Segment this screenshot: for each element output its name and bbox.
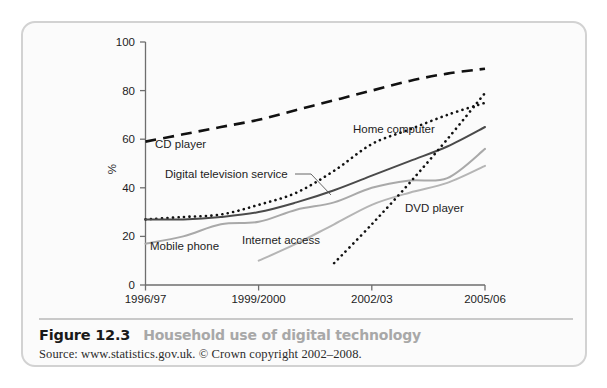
y-tick-label-80: 80 (122, 85, 135, 97)
y-tick-label-0: 0 (129, 279, 135, 291)
figure-number: Figure 12.3 (39, 327, 130, 343)
series-label-mobile-phone: Mobile phone (150, 240, 219, 252)
x-tick-label-2002: 2002/03 (351, 293, 393, 305)
figure-card: 100 80 60 40 20 0 % 1996/97 1999/2000 20… (21, 21, 587, 367)
figure-source: Source: www.statistics.gov.uk. © Crown c… (39, 347, 573, 362)
x-tick-label-1996: 1996/97 (125, 293, 167, 305)
y-tick-label-60: 60 (122, 133, 135, 145)
caption-title-line: Figure 12.3 Household use of digital tec… (39, 327, 573, 343)
series-label-cd-player: CD player (155, 138, 206, 150)
series-line-dvd-player (334, 93, 485, 263)
series-label-dvd-player: DVD player (405, 202, 464, 214)
series-label-home-computer: Home computer (353, 123, 435, 135)
y-tick-label-100: 100 (116, 36, 135, 48)
y-axis-title: % (106, 164, 118, 174)
series-label-internet-access: Internet access (242, 234, 320, 246)
x-tick-label-1999: 1999/2000 (231, 293, 285, 305)
series-label-digital-tv: Digital television service (165, 168, 288, 180)
caption-divider (39, 318, 573, 320)
y-tick-label-40: 40 (122, 182, 135, 194)
line-chart-svg: 100 80 60 40 20 0 % 1996/97 1999/2000 20… (23, 23, 589, 305)
y-tick-label-20: 20 (122, 230, 135, 242)
figure-caption-block: Figure 12.3 Household use of digital tec… (39, 318, 573, 362)
x-tick-label-2005: 2005/06 (464, 293, 506, 305)
chart-plot-area: 100 80 60 40 20 0 % 1996/97 1999/2000 20… (23, 23, 589, 305)
figure-title: Household use of digital technology (143, 327, 421, 343)
